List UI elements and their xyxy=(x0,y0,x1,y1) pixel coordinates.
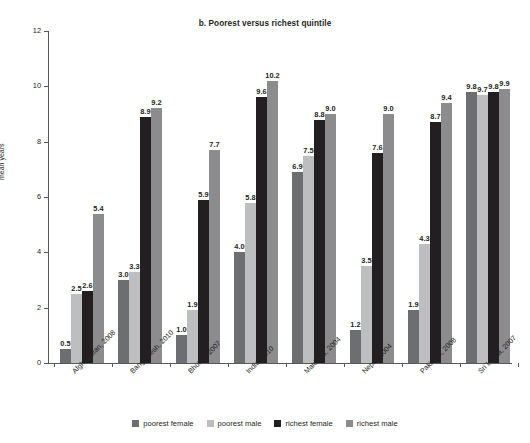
bar[interactable]: 0.5 xyxy=(60,349,71,363)
y-axis-line xyxy=(48,31,49,364)
bar-value-label: 8.9 xyxy=(140,107,150,116)
bar-value-label: 1.9 xyxy=(408,300,418,309)
bar[interactable]: 1.2 xyxy=(350,330,361,363)
bar-value-label: 9.6 xyxy=(256,87,266,96)
bar[interactable]: 1.9 xyxy=(187,310,198,363)
bar-value-label: 9.8 xyxy=(488,82,498,91)
legend-swatch-icon xyxy=(132,420,139,427)
y-axis-tick-label: 0 xyxy=(37,358,41,367)
bar-value-label: 0.5 xyxy=(60,339,70,348)
y-axis-tick-label: 6 xyxy=(37,192,41,201)
bar[interactable]: 7.6 xyxy=(372,153,383,363)
bar-value-label: 9.4 xyxy=(441,93,451,102)
bar-value-label: 9.2 xyxy=(151,98,161,107)
y-axis-tick-label: 4 xyxy=(37,247,41,256)
bar[interactable]: 9.6 xyxy=(256,97,267,363)
x-axis-tick-mark xyxy=(54,363,55,367)
bar-value-label: 6.9 xyxy=(292,162,302,171)
x-axis-tick-mark xyxy=(344,363,345,367)
bar-value-label: 9.7 xyxy=(477,85,487,94)
bar-group: 4.05.89.610.2 xyxy=(234,31,278,363)
y-axis-tick: 12 xyxy=(0,31,48,32)
y-axis-tick-label: 2 xyxy=(37,303,41,312)
x-axis-tick-mark xyxy=(228,363,229,367)
bar-value-label: 5.9 xyxy=(198,190,208,199)
bar[interactable]: 9.2 xyxy=(151,108,162,363)
bar-group: 1.01.95.97.7 xyxy=(176,31,220,363)
bar-value-label: 7.5 xyxy=(303,146,313,155)
bar-value-label: 2.5 xyxy=(71,284,81,293)
legend-item[interactable]: poorest male xyxy=(207,419,262,428)
bar[interactable]: 8.8 xyxy=(314,120,325,363)
bar[interactable]: 9.0 xyxy=(325,114,336,363)
x-axis-tick-mark xyxy=(170,363,171,367)
bar[interactable]: 4.3 xyxy=(419,244,430,363)
x-axis-tick-mark xyxy=(402,363,403,367)
legend-item-label: poorest male xyxy=(218,419,262,428)
bar[interactable]: 8.9 xyxy=(140,117,151,363)
bar[interactable]: 3.0 xyxy=(118,280,129,363)
bar-value-label: 5.4 xyxy=(93,204,103,213)
bar[interactable]: 5.9 xyxy=(198,200,209,363)
bar-value-label: 3.3 xyxy=(129,262,139,271)
bar[interactable]: 9.9 xyxy=(499,89,510,363)
bar-value-label: 7.7 xyxy=(209,140,219,149)
bar-group: 1.23.57.69.0 xyxy=(350,31,394,363)
bar[interactable]: 9.8 xyxy=(488,92,499,363)
bar-value-label: 4.3 xyxy=(419,234,429,243)
legend-item-label: richest female xyxy=(285,419,332,428)
y-axis-title: mean years xyxy=(0,143,5,180)
bar-value-label: 5.8 xyxy=(245,193,255,202)
bar-group: 6.97.58.89.0 xyxy=(292,31,336,363)
bar[interactable]: 9.8 xyxy=(466,92,477,363)
legend-item-label: richest male xyxy=(357,419,398,428)
bar-value-label: 1.0 xyxy=(176,325,186,334)
bar[interactable]: 4.0 xyxy=(234,252,245,363)
bar-group: 9.89.79.89.9 xyxy=(466,31,510,363)
bar[interactable]: 7.5 xyxy=(303,156,314,364)
legend-swatch-icon xyxy=(274,420,281,427)
bar-value-label: 7.6 xyxy=(372,143,382,152)
y-axis-tick-mark xyxy=(44,31,48,32)
y-axis-tick-mark xyxy=(44,142,48,143)
chart-container: b. Poorest versus richest quintile mean … xyxy=(0,0,530,443)
legend-item[interactable]: richest female xyxy=(274,419,332,428)
chart-title: b. Poorest versus richest quintile xyxy=(0,19,530,28)
bar[interactable]: 3.3 xyxy=(129,272,140,363)
y-axis-tick-label: 8 xyxy=(37,137,41,146)
x-axis-tick-mark xyxy=(286,363,287,367)
y-axis-tick-mark xyxy=(44,197,48,198)
bar-value-label: 4.0 xyxy=(234,242,244,251)
y-axis-tick-mark xyxy=(44,308,48,309)
bar[interactable]: 10.2 xyxy=(267,81,278,363)
bar-group: 3.03.38.99.2 xyxy=(118,31,162,363)
bar-value-label: 3.0 xyxy=(118,270,128,279)
x-axis-tick-mark xyxy=(460,363,461,367)
bar[interactable]: 9.0 xyxy=(383,114,394,363)
bar-value-label: 3.5 xyxy=(361,256,371,265)
bar[interactable]: 3.5 xyxy=(361,266,372,363)
bar[interactable]: 1.0 xyxy=(176,335,187,363)
y-axis-tick-mark xyxy=(44,252,48,253)
legend-item[interactable]: richest male xyxy=(346,419,398,428)
bar-value-label: 8.7 xyxy=(430,112,440,121)
bar[interactable]: 7.7 xyxy=(209,150,220,363)
bar[interactable]: 5.8 xyxy=(245,203,256,363)
bar[interactable]: 9.7 xyxy=(477,95,488,363)
y-axis-tick-label: 10 xyxy=(33,81,41,90)
bar[interactable]: 1.9 xyxy=(408,310,419,363)
bar-group: 0.52.52.65.4 xyxy=(60,31,104,363)
legend-swatch-icon xyxy=(346,420,353,427)
legend-item[interactable]: poorest female xyxy=(132,419,193,428)
bar-value-label: 9.0 xyxy=(383,104,393,113)
x-axis-tick-mark xyxy=(518,363,519,367)
bar[interactable]: 6.9 xyxy=(292,172,303,363)
bar[interactable]: 8.7 xyxy=(430,122,441,363)
bar[interactable]: 9.4 xyxy=(441,103,452,363)
y-axis-tick: 0 xyxy=(0,363,48,364)
bar-value-label: 8.8 xyxy=(314,110,324,119)
y-axis-tick: 10 xyxy=(0,86,48,87)
bar[interactable]: 2.5 xyxy=(71,294,82,363)
x-axis-line xyxy=(48,363,512,364)
bar-value-label: 9.0 xyxy=(325,104,335,113)
